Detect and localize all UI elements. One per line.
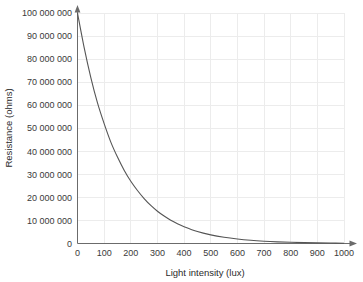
x-axis-arrowhead: [350, 241, 358, 247]
x-tick-label: 300: [150, 248, 165, 258]
x-tick-label: 200: [123, 248, 138, 258]
x-axis-title: Light intensity (lux): [165, 267, 244, 278]
y-tick-label: 70 000 000: [27, 77, 72, 87]
y-tick-label: 40 000 000: [27, 147, 72, 157]
x-tick-label: 600: [230, 248, 245, 258]
y-tick-label: 60 000 000: [27, 100, 72, 110]
x-tick-label: 900: [310, 248, 325, 258]
x-tick-label: 100: [97, 248, 112, 258]
y-tick-label: 20 000 000: [27, 193, 72, 203]
y-tick-labels: 010 000 00020 000 00030 000 00040 000 00…: [22, 8, 72, 249]
y-tick-label: 50 000 000: [27, 123, 72, 133]
x-tick-label: 700: [257, 248, 272, 258]
chart-container: 010 000 00020 000 00030 000 00040 000 00…: [0, 0, 363, 282]
y-tick-label: 30 000 000: [27, 170, 72, 180]
x-tick-label: 800: [283, 248, 298, 258]
y-axis-arrowhead: [75, 5, 81, 13]
y-tick-label: 80 000 000: [27, 54, 72, 64]
x-tick-label: 500: [203, 248, 218, 258]
x-tick-labels: 01002003004005006007008009001000: [75, 248, 354, 258]
y-tick-label: 90 000 000: [27, 31, 72, 41]
y-tick-label: 100 000 000: [22, 8, 72, 18]
y-tick-label: 10 000 000: [27, 216, 72, 226]
y-tick-label: 0: [67, 239, 72, 249]
resistance-vs-light-intensity-chart: 010 000 00020 000 00030 000 00040 000 00…: [0, 0, 363, 282]
x-tick-label: 0: [75, 248, 80, 258]
x-tick-label: 400: [177, 248, 192, 258]
y-axis-title: Resistance (ohms): [3, 88, 14, 167]
x-tick-label: 1000: [334, 248, 354, 258]
